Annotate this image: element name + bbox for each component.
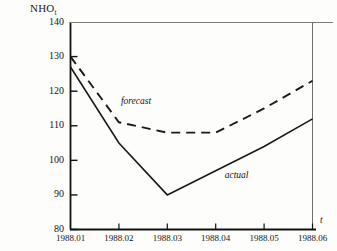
y-axis-tick-label: 120 <box>26 85 64 96</box>
y-axis-tick-label: 130 <box>26 50 64 61</box>
chart-container: NHOt 1401301201101009080 1988.011988.021… <box>0 0 337 251</box>
series-line-actual <box>71 67 313 195</box>
y-axis-tick-label: 110 <box>26 119 64 130</box>
y-axis-tick-label: 90 <box>26 188 64 199</box>
annotation-forecast: forecast <box>121 96 151 106</box>
y-axis-title-text: NHO <box>30 2 54 14</box>
y-axis-ticks <box>71 57 78 230</box>
x-axis-tick-label: 1988.06 <box>283 233 337 243</box>
series-line-forecast <box>71 57 313 133</box>
annotation-actual: actual <box>225 170 249 180</box>
y-axis-tick-label: 100 <box>26 154 64 165</box>
y-axis-tick-label: 140 <box>26 16 64 27</box>
x-axis-title: t <box>320 215 323 225</box>
